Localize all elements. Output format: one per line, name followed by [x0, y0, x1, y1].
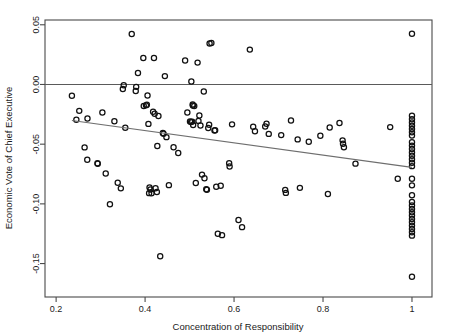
x-tick-label: 0.6 — [228, 304, 241, 314]
data-point — [155, 143, 160, 148]
data-point — [409, 176, 414, 181]
data-point — [409, 31, 414, 36]
data-point — [409, 193, 414, 198]
data-point — [69, 93, 74, 98]
data-point — [183, 58, 188, 63]
data-point — [327, 125, 332, 130]
y-tick-label: 0.05 — [31, 16, 41, 34]
data-point — [158, 254, 163, 259]
data-point — [409, 274, 414, 279]
data-point — [247, 47, 252, 52]
data-point — [325, 191, 330, 196]
data-point — [318, 133, 323, 138]
x-tick-label: 1 — [409, 304, 414, 314]
data-point — [151, 55, 156, 60]
data-point — [82, 145, 87, 150]
data-point — [207, 122, 212, 127]
data-point — [227, 164, 232, 169]
data-point — [171, 145, 176, 150]
y-tick-label: -0.05 — [31, 134, 41, 155]
data-point — [85, 157, 90, 162]
data-point — [176, 150, 181, 155]
data-point — [252, 129, 257, 134]
data-point — [107, 202, 112, 207]
data-point — [239, 225, 244, 230]
data-point — [146, 121, 151, 126]
data-point — [193, 180, 198, 185]
y-tick-label: -0.15 — [31, 253, 41, 274]
data-point — [141, 55, 146, 60]
plot-frame — [45, 20, 432, 297]
data-point — [189, 79, 194, 84]
data-point — [129, 31, 134, 36]
regression-line — [72, 121, 412, 168]
data-point — [201, 89, 206, 94]
data-point — [236, 217, 241, 222]
y-tick-label: 0.00 — [31, 76, 41, 94]
data-point — [198, 123, 203, 128]
x-axis-ticks: 0.20.40.60.81 — [50, 297, 415, 314]
data-point — [118, 186, 123, 191]
data-point — [279, 133, 284, 138]
data-point — [77, 108, 82, 113]
x-tick-label: 0.8 — [317, 304, 330, 314]
data-point — [195, 60, 200, 65]
data-point — [112, 119, 117, 124]
data-point — [145, 93, 150, 98]
data-point — [229, 122, 234, 127]
data-point — [100, 110, 105, 115]
data-point — [115, 180, 120, 185]
data-point — [341, 145, 346, 150]
y-axis-title: Economic Vote of Chief Executive — [3, 87, 14, 230]
y-tick-label: -0.10 — [31, 194, 41, 215]
data-point — [295, 137, 300, 142]
data-point — [395, 176, 400, 181]
plot-canvas: 0.20.40.60.81 0.050.00-0.05-0.10-0.15 Co… — [0, 0, 451, 336]
data-point — [337, 120, 342, 125]
data-point — [266, 131, 271, 136]
data-point — [135, 70, 140, 75]
data-point — [185, 110, 190, 115]
data-point — [164, 135, 169, 140]
data-point — [297, 185, 302, 190]
data-point — [197, 113, 202, 118]
y-axis-ticks: 0.050.00-0.05-0.10-0.15 — [31, 16, 45, 274]
data-point — [288, 118, 293, 123]
x-tick-label: 0.2 — [50, 304, 63, 314]
scatter-plot-figure: 0.20.40.60.81 0.050.00-0.05-0.10-0.15 Co… — [0, 0, 451, 336]
data-point — [166, 183, 171, 188]
data-points — [69, 31, 414, 279]
data-point — [353, 161, 358, 166]
data-point — [306, 139, 311, 144]
data-point — [409, 164, 414, 169]
data-point — [388, 125, 393, 130]
data-point — [103, 171, 108, 176]
data-point — [85, 116, 90, 121]
data-point — [162, 74, 167, 79]
x-axis-title: Concentration of Responsibility — [173, 321, 304, 332]
data-point — [409, 183, 414, 188]
data-point — [409, 233, 414, 238]
x-tick-label: 0.4 — [139, 304, 152, 314]
data-point — [409, 133, 414, 138]
